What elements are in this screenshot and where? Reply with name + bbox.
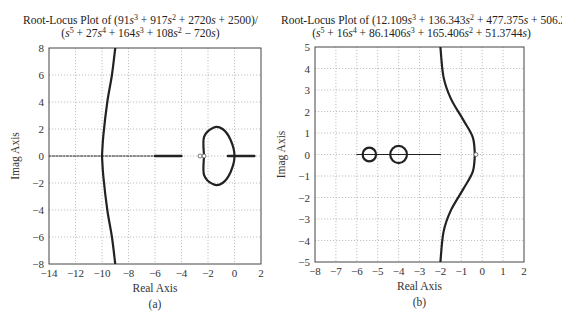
svg-text:2: 2 [305,106,311,118]
svg-text:6: 6 [39,69,45,81]
locus-branch [440,155,474,263]
svg-text:−10: −10 [93,267,111,279]
svg-text:−2: −2 [32,177,44,189]
svg-text:−3: −3 [414,265,426,277]
svg-text:2: 2 [258,267,264,279]
zero-marker [474,153,478,157]
svg-text:0: 0 [39,150,45,162]
svg-text:−8: −8 [32,258,44,270]
x-axis-label: Real Axis [132,282,178,294]
svg-text:−4: −4 [176,267,188,279]
zero-marker [202,154,206,158]
panel-b-plot: −8−7−6−5−4−3−2−1012−5−4−3−2−1012345Real … [281,0,562,317]
panel-a: Root-Locus Plot of (91s3 + 917s2 + 2720s… [0,0,281,317]
svg-text:−8: −8 [123,267,135,279]
y-axis-label: Imag Axis [275,130,288,178]
svg-text:−6: −6 [32,231,44,243]
x-axis-label: Real Axis [397,280,443,292]
svg-text:0: 0 [479,265,485,277]
tick-labels: −14−12−10−8−6−4−202−8−6−4−202468 [32,42,263,279]
svg-text:−2: −2 [202,267,214,279]
panel-caption: (a) [149,298,162,311]
svg-text:−4: −4 [298,235,310,247]
panel-a-plot: −14−12−10−8−6−4−202−8−6−4−202468Real Axi… [0,0,281,317]
svg-text:4: 4 [305,63,311,75]
locus-branch [440,47,474,155]
svg-text:−6: −6 [149,267,161,279]
zero-marker [198,154,202,158]
svg-text:−1: −1 [455,265,467,277]
svg-text:4: 4 [39,96,45,108]
svg-text:3: 3 [305,84,311,96]
svg-text:2: 2 [521,265,527,277]
svg-text:−2: −2 [298,192,310,204]
svg-text:−1: −1 [298,170,310,182]
svg-text:−4: −4 [32,204,44,216]
svg-text:−7: −7 [330,265,342,277]
svg-text:−3: −3 [298,213,310,225]
svg-text:0: 0 [305,149,311,161]
svg-text:1: 1 [500,265,506,277]
svg-text:−4: −4 [393,265,405,277]
svg-text:−12: −12 [67,267,84,279]
y-axis-label: Imag Axis [9,132,22,180]
svg-text:−8: −8 [309,265,321,277]
panel-b: Root-Locus Plot of (12.109s3 + 136.343s2… [281,0,562,317]
svg-text:0: 0 [232,267,238,279]
svg-text:−5: −5 [372,265,384,277]
svg-text:8: 8 [39,42,45,54]
svg-text:1: 1 [305,127,311,139]
svg-text:−5: −5 [298,256,310,268]
svg-text:5: 5 [305,41,311,53]
svg-text:2: 2 [39,123,45,135]
svg-text:−2: −2 [435,265,447,277]
tick-labels: −8−7−6−5−4−3−2−1012−5−4−3−2−1012345 [298,41,526,277]
svg-text:−6: −6 [351,265,363,277]
panel-caption: (b) [413,296,427,309]
